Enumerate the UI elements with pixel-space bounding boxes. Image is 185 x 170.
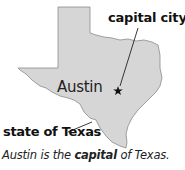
caption-part1: Austin is the — [2, 148, 74, 162]
caption: Austin is the capital of Texas. — [2, 148, 170, 162]
caption-part2: of Texas. — [117, 148, 170, 162]
caption-emphasis: capital — [74, 148, 117, 162]
capital-city-label: capital city — [108, 10, 185, 25]
city-label: Austin — [57, 78, 102, 96]
state-label: state of Texas — [3, 124, 101, 139]
